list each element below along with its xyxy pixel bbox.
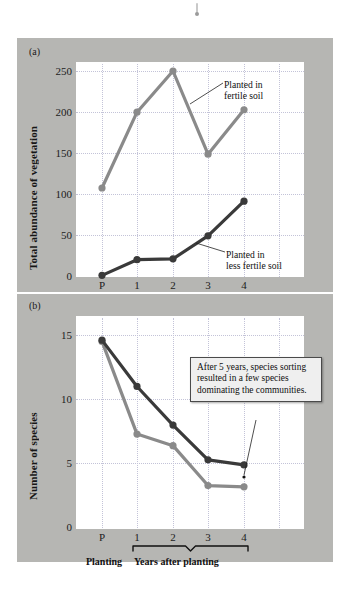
figure-root: (a) Total abundance of vegetation 250 20…: [0, 0, 350, 595]
years-brace: [133, 546, 248, 551]
axis-brace-svg: [0, 0, 350, 595]
